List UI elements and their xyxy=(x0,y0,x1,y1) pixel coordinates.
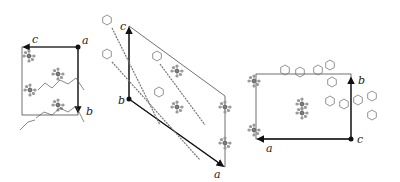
label-a: a xyxy=(214,168,221,181)
origin-dot xyxy=(127,97,132,102)
label-c: c xyxy=(32,33,38,46)
origin-dot xyxy=(76,45,81,50)
panel-right: b c a xyxy=(247,60,376,155)
label-c: c xyxy=(120,20,126,33)
panel-middle: c b a xyxy=(103,15,232,181)
label-c: c xyxy=(357,133,363,146)
origin-dot xyxy=(349,137,354,142)
axis-a xyxy=(129,99,223,166)
label-b: b xyxy=(118,94,125,107)
label-a: a xyxy=(82,34,89,47)
label-b: b xyxy=(358,74,365,87)
label-a: a xyxy=(266,142,273,155)
label-b: b xyxy=(86,105,93,118)
crystal-packing-figure: a c b c b a b c a xyxy=(0,0,400,182)
unit-cell xyxy=(256,74,351,139)
panel-left: a c b xyxy=(20,33,93,130)
